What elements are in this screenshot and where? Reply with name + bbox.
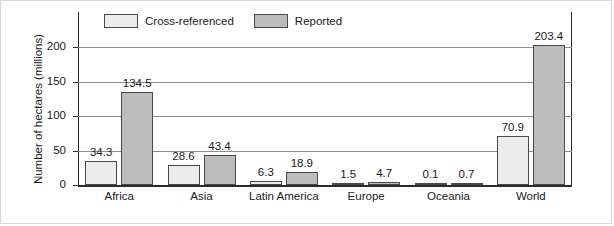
bar-latin-america-reported bbox=[286, 172, 318, 185]
bar-value-label: 0.1 bbox=[411, 169, 451, 181]
legend-label: Reported bbox=[295, 15, 342, 27]
legend-swatch-icon bbox=[254, 14, 288, 28]
legend-entry-cross-referenced: Cross-referenced bbox=[104, 14, 234, 28]
y-tick-mark bbox=[73, 82, 78, 83]
bar-asia-reported bbox=[204, 155, 236, 185]
y-tick-label: 50 bbox=[26, 145, 66, 157]
y-tick-label: 200 bbox=[26, 41, 66, 53]
bar-africa-reported bbox=[121, 92, 153, 185]
bar-europe-reported bbox=[368, 182, 400, 185]
bar-value-label: 134.5 bbox=[117, 78, 157, 90]
legend-entry-reported: Reported bbox=[254, 14, 342, 28]
y-axis-line bbox=[78, 12, 79, 186]
chart-legend: Cross-referencedReported bbox=[104, 14, 342, 28]
gridline bbox=[78, 47, 572, 48]
bar-world-cross-referenced bbox=[497, 136, 529, 185]
bar-world-reported bbox=[533, 45, 565, 185]
chart-screenshot: Number of hectares (millions) 0501001502… bbox=[0, 0, 614, 226]
bar-value-label: 18.9 bbox=[282, 158, 322, 170]
y-tick-mark bbox=[73, 185, 78, 186]
bar-value-label: 4.7 bbox=[364, 168, 404, 180]
bar-africa-cross-referenced bbox=[85, 161, 117, 185]
y-tick-mark bbox=[73, 47, 78, 48]
bar-value-label: 28.6 bbox=[164, 151, 204, 163]
bar-value-label: 1.5 bbox=[328, 169, 368, 181]
bar-latin-america-cross-referenced bbox=[250, 181, 282, 185]
bar-value-label: 6.3 bbox=[246, 167, 286, 179]
y-tick-label: 100 bbox=[26, 110, 66, 122]
bar-value-label: 203.4 bbox=[529, 31, 569, 43]
x-axis-line bbox=[78, 185, 572, 187]
right-axis-line bbox=[571, 12, 572, 186]
category-label-world: World bbox=[471, 191, 591, 203]
bar-europe-cross-referenced bbox=[332, 183, 364, 186]
bar-asia-cross-referenced bbox=[168, 165, 200, 185]
legend-swatch-icon bbox=[104, 14, 138, 28]
legend-label: Cross-referenced bbox=[145, 15, 234, 27]
bar-value-label: 34.3 bbox=[81, 147, 121, 159]
plot-area: 050100150200 34.3134.528.643.46.318.91.5… bbox=[78, 12, 572, 186]
y-tick-label: 0 bbox=[26, 179, 66, 191]
y-tick-mark bbox=[73, 151, 78, 152]
y-tick-label: 150 bbox=[26, 76, 66, 88]
bar-value-label: 70.9 bbox=[493, 122, 533, 134]
bar-oceania-cross-referenced bbox=[415, 183, 447, 186]
y-tick-mark bbox=[73, 116, 78, 117]
bar-oceania-reported bbox=[451, 183, 483, 186]
bar-value-label: 0.7 bbox=[447, 169, 487, 181]
bar-value-label: 43.4 bbox=[200, 141, 240, 153]
